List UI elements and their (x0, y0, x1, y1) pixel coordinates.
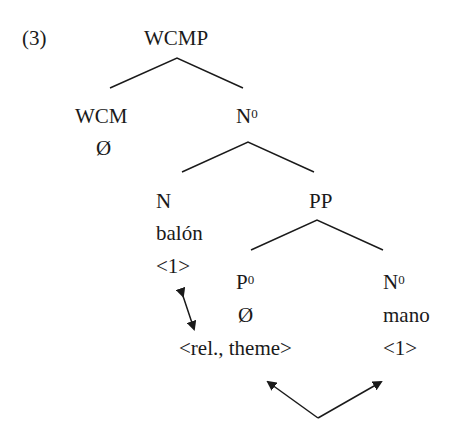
node-n0: N0 (236, 104, 258, 128)
node-wcm: WCM (75, 104, 128, 128)
arrow-balon-theme (183, 296, 194, 329)
node-n0-mano: N0 (383, 270, 405, 294)
wcm-null: Ø (96, 136, 111, 160)
node-p0: P0 (236, 270, 254, 294)
p0-null: Ø (238, 303, 253, 327)
p0-features: <rel., theme> (179, 336, 292, 360)
tree-lines (0, 0, 465, 437)
branch-wcmp (110, 58, 243, 88)
index-mano: <1> (383, 336, 417, 360)
index-balon: <1> (156, 254, 190, 278)
arrow-mano-right (318, 382, 381, 418)
word-mano: mano (383, 303, 430, 327)
branch-n0 (182, 142, 314, 172)
node-n: N (156, 189, 171, 213)
node-pp: PP (309, 189, 332, 213)
node-wcmp: WCMP (144, 26, 208, 50)
branch-pp (251, 220, 383, 250)
example-number: (3) (22, 26, 47, 50)
word-balon: balón (156, 221, 203, 245)
arrow-theme-left (268, 382, 318, 418)
